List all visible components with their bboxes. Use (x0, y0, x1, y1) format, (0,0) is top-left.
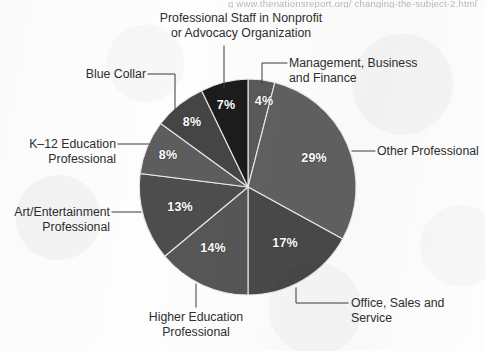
callout-label-art-entertainment: Art/Entertainment Professional (2, 205, 110, 234)
pie-value-label-nonprofit-staff: 7% (217, 98, 235, 112)
callout-label-nonprofit-staff: Professional Staff in Nonprofit or Advoc… (151, 11, 331, 40)
pie-value-label-blue-collar: 8% (183, 115, 201, 129)
callout-label-higher-education: Higher Education Professional (121, 310, 271, 339)
leader-line-blue-collar (148, 74, 175, 110)
pie-value-label-management: 4% (255, 94, 273, 108)
callout-label-blue-collar: Blue Collar (52, 67, 146, 82)
pie-value-label-higher-education: 14% (200, 241, 225, 255)
pie-value-label-other-professional: 29% (301, 151, 326, 165)
pie-chart-figure: g www.thenationsreport.org/ changing-the… (0, 0, 485, 351)
callout-label-other-professional: Other Professional (377, 144, 485, 159)
leader-line-office-sales (296, 288, 348, 303)
pie-value-label-art-entertainment: 13% (167, 200, 192, 214)
pie-value-label-k12-education: 8% (159, 148, 177, 162)
pie-value-label-office-sales: 17% (272, 236, 297, 250)
callout-label-management: Management, Business and Finance (289, 56, 459, 85)
callout-label-k12-education: K–12 Education Professional (10, 137, 116, 166)
callout-label-office-sales: Office, Sales and Service (351, 296, 485, 325)
